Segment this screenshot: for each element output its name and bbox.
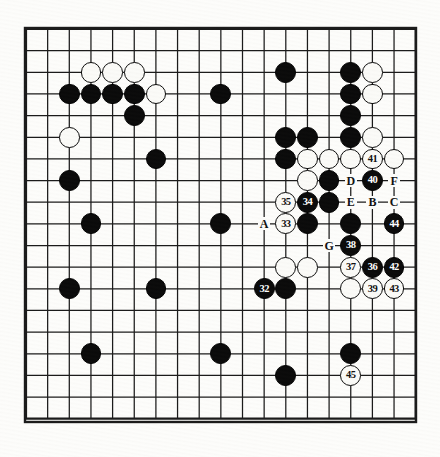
stone-move-number: 37: [346, 261, 355, 272]
stone-move-number: 36: [368, 261, 377, 272]
go-board-diagram: 4140353433443837364232394345 DFEBCAG: [0, 0, 440, 457]
stone-white: [275, 257, 296, 278]
stone-move-number: 45: [346, 370, 355, 381]
stone-black: [297, 127, 318, 148]
stone-move-35: 35: [275, 192, 296, 213]
stone-white: [59, 127, 80, 148]
stone-move-number: 41: [368, 153, 377, 164]
stone-move-number: 42: [389, 261, 398, 272]
stone-move-38: 38: [340, 235, 361, 256]
stone-move-number: 33: [281, 218, 290, 229]
stone-black: [340, 105, 361, 126]
stone-white: [362, 127, 383, 148]
stone-move-32: 32: [254, 278, 275, 299]
stone-black: [340, 127, 361, 148]
stone-move-number: 40: [368, 175, 377, 186]
stone-white: [102, 62, 123, 83]
stone-black: [275, 127, 296, 148]
point-marker-F: F: [388, 174, 400, 187]
point-marker-C: C: [388, 196, 400, 209]
point-marker-G: G: [323, 239, 335, 252]
stone-black: [319, 192, 340, 213]
stone-white: [297, 149, 318, 170]
point-marker-A: A: [258, 217, 270, 230]
stone-move-number: 44: [389, 218, 398, 229]
stone-move-40: 40: [362, 170, 383, 191]
stone-black: [124, 105, 145, 126]
stone-black: [275, 62, 296, 83]
stone-black: [275, 365, 296, 386]
point-marker-B: B: [366, 196, 378, 209]
stone-black: [59, 278, 80, 299]
stone-move-39: 39: [362, 278, 383, 299]
stone-move-number: 35: [281, 196, 290, 207]
stone-white: [297, 170, 318, 191]
stone-black: [59, 170, 80, 191]
stone-move-number: 34: [303, 196, 312, 207]
stone-move-41: 41: [362, 149, 383, 170]
stone-white: [362, 62, 383, 83]
stone-white: [297, 257, 318, 278]
stone-black: [340, 62, 361, 83]
point-marker-E: E: [345, 196, 357, 209]
stone-move-37: 37: [340, 257, 361, 278]
stone-white: [362, 84, 383, 105]
stone-move-42: 42: [384, 257, 405, 278]
stone-move-34: 34: [297, 192, 318, 213]
stone-black: [297, 213, 318, 234]
stone-black: [102, 84, 123, 105]
stone-move-number: 38: [346, 240, 355, 251]
stone-move-36: 36: [362, 257, 383, 278]
stone-white: [124, 62, 145, 83]
stone-move-number: 43: [389, 283, 398, 294]
stone-white: [81, 62, 102, 83]
stone-black: [59, 84, 80, 105]
stone-move-number: 32: [259, 283, 268, 294]
point-marker-D: D: [345, 174, 357, 187]
stone-move-number: 39: [368, 283, 377, 294]
stone-move-45: 45: [340, 365, 361, 386]
stone-black: [124, 84, 145, 105]
